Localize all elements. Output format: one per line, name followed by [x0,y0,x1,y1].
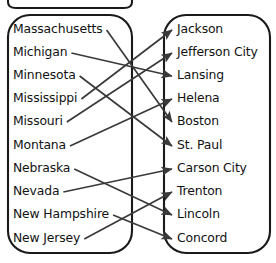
left-item-massachusetts: Massachusetts [13,23,103,35]
left-item-new-jersey: New Jersey [13,232,80,244]
left-item-montana: Montana [13,139,66,151]
right-item-helena: Helena [177,92,220,104]
right-item-concord: Concord [177,232,227,244]
right-item-lincoln: Lincoln [177,208,220,220]
right-item-boston: Boston [177,115,219,127]
left-item-michigan: Michigan [13,46,67,58]
left-item-new-hampshire: New Hampshire [13,208,109,220]
right-item-jefferson-city: Jefferson City [177,46,258,58]
right-item-trenton: Trenton [177,185,222,197]
right-item-jackson: Jackson [177,23,223,35]
diagram-canvas: Massachusetts Michigan Minnesota Mississ… [0,0,276,263]
left-item-mississippi: Mississippi [13,92,77,104]
left-item-missouri: Missouri [13,115,63,127]
left-item-nebraska: Nebraska [13,162,70,174]
label-layer: Massachusetts Michigan Minnesota Mississ… [0,0,276,263]
right-item-lansing: Lansing [177,69,224,81]
right-item-st-paul: St. Paul [177,139,222,151]
left-item-minnesota: Minnesota [13,69,76,81]
left-item-nevada: Nevada [13,185,59,197]
right-item-carson-city: Carson City [177,162,247,174]
